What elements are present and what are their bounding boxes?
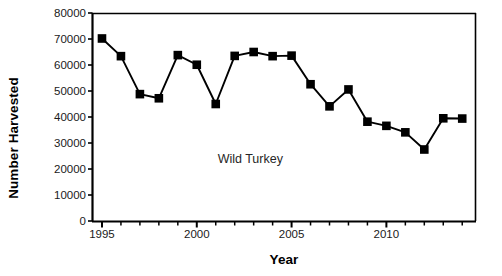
data-point-marker [249,48,258,57]
data-point-marker [325,102,334,111]
data-point-marker [363,117,372,126]
data-point-marker [268,52,277,61]
x-tick-label: 2000 [167,228,227,240]
data-point-marker [458,114,467,123]
x-axis-title: Year [92,252,476,267]
data-point-marker [211,100,220,109]
data-point-marker [117,52,126,61]
data-series-markers [98,34,467,154]
data-point-marker [230,52,239,61]
data-point-marker [420,145,429,154]
data-point-marker [155,94,164,103]
data-point-marker [439,114,448,123]
x-tick-label: 2005 [262,228,322,240]
data-point-marker [174,51,183,60]
series-annotation-label: Wild Turkey [218,152,283,166]
x-tick-label: 2010 [356,228,416,240]
data-point-marker [306,80,315,89]
axis-lines [92,13,476,222]
chart-figure: Number Harvested 80000700006000050000400… [0,0,502,276]
data-point-marker [287,51,296,60]
data-point-marker [98,34,107,43]
data-point-marker [401,128,410,137]
data-point-marker [344,85,353,94]
data-point-marker [192,60,201,69]
data-point-marker [136,90,145,99]
data-point-marker [382,122,391,131]
x-tick-label: 1995 [72,228,132,240]
